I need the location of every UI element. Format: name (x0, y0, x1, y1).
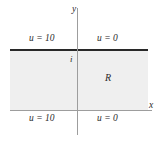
y-axis-label: y (72, 5, 76, 15)
boundary-condition-top-right: u = 0 (97, 34, 118, 44)
y-axis-line (77, 8, 78, 135)
region-shaded-area (10, 50, 148, 110)
imaginary-unit-marker-label: i (70, 55, 73, 64)
boundary-condition-bottom-right: u = 0 (97, 114, 118, 124)
top-boundary-line (10, 49, 148, 51)
x-axis-label: x (149, 101, 153, 111)
region-label: R (105, 73, 111, 83)
x-axis-line (10, 110, 152, 111)
boundary-condition-top-left: u = 10 (29, 34, 54, 44)
boundary-condition-bottom-left: u = 10 (29, 114, 54, 124)
boundary-value-diagram: y x i R u = 10 u = 0 u = 10 u = 0 (0, 0, 160, 143)
